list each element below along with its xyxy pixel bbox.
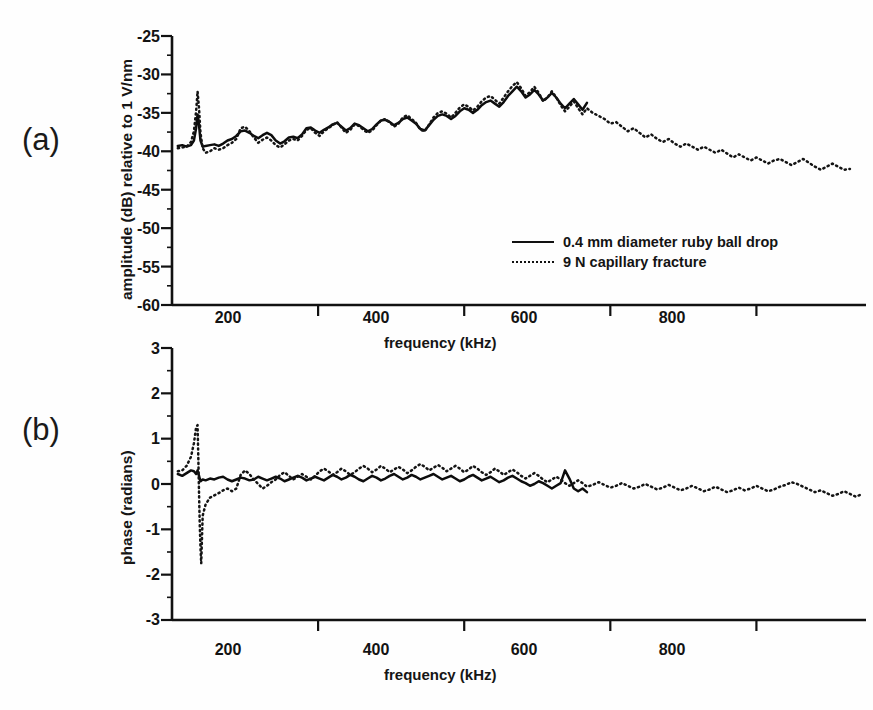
- panel-a-ytick-3: -40: [108, 143, 160, 161]
- panel-a-ytick-5: -50: [108, 220, 160, 238]
- legend-label-solid: 0.4 mm diameter ruby ball drop: [563, 234, 778, 250]
- panel-b-ytick-3: 0: [108, 476, 160, 494]
- panel-a-ytick-0: -25: [108, 28, 160, 46]
- panel-a-ytick-2: -35: [108, 105, 160, 123]
- panel-a-label: (a): [22, 122, 60, 158]
- panel-b-label: (b): [22, 412, 60, 448]
- panel-a-ytick-1: -30: [108, 66, 160, 84]
- panel-b-ytick-2: 1: [108, 430, 160, 448]
- panel-a-xtick-2: 600: [484, 309, 564, 327]
- legend-solid-line-icon: [512, 236, 554, 248]
- panel-a-ytick-6: -55: [108, 259, 160, 277]
- panel-a-legend: 0.4 mm diameter ruby ball drop 9 N capil…: [512, 232, 778, 272]
- panel-b: (b) phase (radians) frequency (kHz) 3 2 …: [0, 330, 873, 700]
- panel-a-ytick-4: -45: [108, 182, 160, 200]
- panel-b-xtick-1: 400: [336, 641, 416, 659]
- panel-b-ytick-4: -1: [108, 521, 160, 539]
- panel-b-x-axis-label: frequency (kHz): [384, 666, 497, 683]
- panel-b-ytick-5: -2: [108, 566, 160, 584]
- panel-b-xtick-3: 800: [632, 641, 712, 659]
- panel-b-ytick-6: -3: [108, 611, 160, 629]
- legend-label-dotted: 9 N capillary fracture: [563, 254, 706, 270]
- panel-b-y-axis-label: phase (radians): [118, 450, 136, 565]
- panel-b-ytick-0: 3: [108, 340, 160, 358]
- panel-a-xtick-1: 400: [336, 309, 416, 327]
- panel-a-ytick-7: -60: [108, 297, 160, 315]
- panel-a: (a) amplitude (dB) relative to 1 V/nm fr…: [0, 0, 873, 355]
- legend-dotted-line-icon: [512, 256, 554, 268]
- figure-root: (a) amplitude (dB) relative to 1 V/nm fr…: [0, 0, 873, 710]
- panel-a-xtick-0: 200: [188, 309, 268, 327]
- legend-entry-dotted: 9 N capillary fracture: [512, 252, 778, 272]
- legend-entry-solid: 0.4 mm diameter ruby ball drop: [512, 232, 778, 252]
- panel-b-xtick-2: 600: [484, 641, 564, 659]
- panel-a-xtick-3: 800: [632, 309, 712, 327]
- panel-b-xtick-0: 200: [188, 641, 268, 659]
- panel-b-ytick-1: 2: [108, 385, 160, 403]
